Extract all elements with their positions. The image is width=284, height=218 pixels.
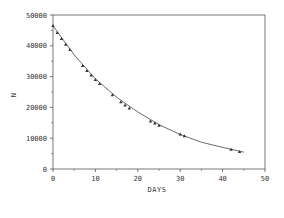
triangle-marker (51, 24, 54, 27)
y-tick-label: 50000 (26, 12, 47, 20)
fitted-curve (53, 26, 244, 152)
x-tick-label: 30 (176, 175, 184, 183)
y-tick-label: 0 (43, 166, 47, 174)
x-tick-label: 10 (91, 175, 99, 183)
y-tick-label: 20000 (26, 104, 47, 112)
triangle-marker (68, 48, 71, 51)
y-tick-label: 30000 (26, 73, 47, 81)
x-tick-label: 50 (261, 175, 269, 183)
triangle-marker (56, 31, 59, 34)
decay-chart: 01000020000300004000050000 01020304050 D… (0, 0, 284, 218)
data-points (51, 24, 241, 153)
y-axis-ticks: 01000020000300004000050000 (26, 12, 53, 174)
x-tick-label: 0 (51, 175, 55, 183)
x-tick-label: 20 (134, 175, 142, 183)
y-tick-label: 10000 (26, 135, 47, 143)
triangle-marker (64, 43, 67, 46)
plot-frame (53, 15, 265, 169)
x-axis-ticks: 01020304050 (51, 169, 269, 183)
x-tick-label: 40 (218, 175, 226, 183)
x-axis-label: DAYS (148, 186, 167, 194)
y-axis-label: N (10, 93, 18, 98)
triangle-marker (60, 37, 63, 40)
y-tick-label: 40000 (26, 42, 47, 50)
plot-border (53, 15, 265, 169)
